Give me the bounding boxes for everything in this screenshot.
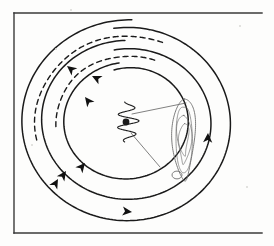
- figure-root: Hand-drawn spiral orbit diagram: [0, 0, 274, 246]
- spiral-orbit-diagram: Hand-drawn spiral orbit diagram: [0, 0, 274, 246]
- central-node-dot: [123, 119, 130, 126]
